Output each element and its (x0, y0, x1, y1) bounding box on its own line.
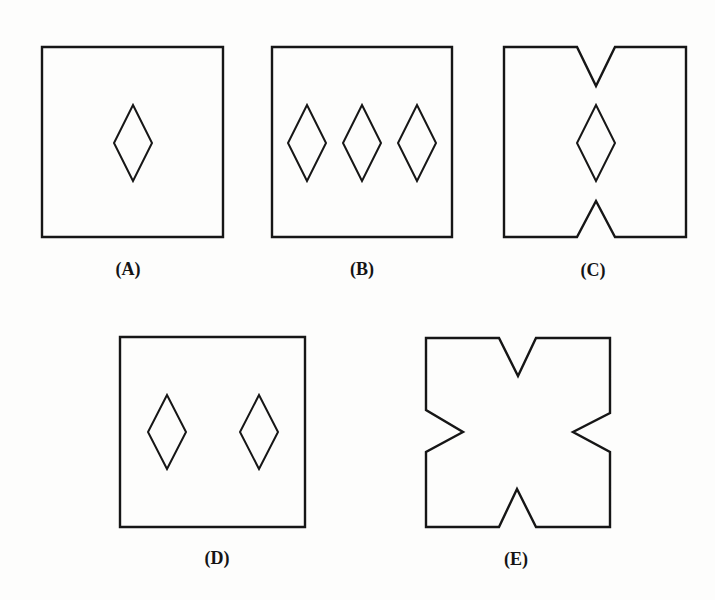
option-b-diamonds (288, 105, 436, 181)
option-c-outline (504, 47, 686, 237)
diamond-cutout-d-2 (240, 395, 278, 469)
diamond-cutout-b-1 (288, 105, 326, 181)
diamond-cutout-c-1 (577, 105, 615, 181)
option-d-figure (120, 337, 305, 527)
option-c-figure (504, 47, 686, 237)
option-d-diamonds (148, 395, 278, 469)
answer-choice-figures (0, 0, 715, 600)
option-d-label: (D) (205, 549, 230, 567)
option-c-label: (C) (581, 261, 606, 279)
diamond-cutout-b-3 (398, 105, 436, 181)
diamond-cutout-d-1 (148, 395, 186, 469)
option-a-diamonds (114, 105, 152, 181)
option-a-figure (42, 47, 223, 237)
option-b-label: (B) (350, 260, 374, 278)
figure-canvas: (A) (B) (C) (D) (E) (0, 0, 715, 600)
option-e-label: (E) (504, 550, 528, 568)
option-e-figure (426, 338, 610, 527)
option-a-label: (A) (116, 260, 141, 278)
option-a-outline (42, 47, 223, 237)
diamond-cutout-a-1 (114, 105, 152, 181)
option-b-outline (272, 47, 452, 237)
option-b-figure (272, 47, 452, 237)
option-c-diamonds (577, 105, 615, 181)
option-e-outline (426, 338, 610, 527)
diamond-cutout-b-2 (343, 105, 381, 181)
